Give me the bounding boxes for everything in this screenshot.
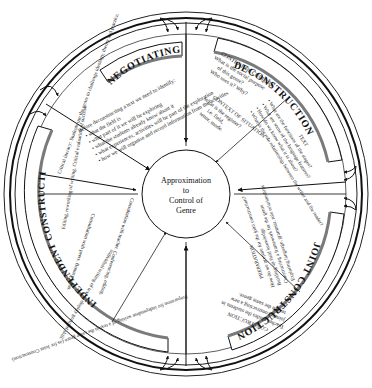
center-goal: Approximation to Control of Genre: [142, 150, 230, 238]
teaching-learning-cycle-diagram: NEGOTIATING FIELD DECONSTRUCTION JOINT C…: [0, 0, 372, 388]
svg-text:Approximation: Approximation: [161, 176, 211, 185]
svg-text:Consultation with teacher. Con: Consultation with teacher. Conferencing,…: [99, 197, 136, 296]
svg-text:Preparation for independent wr: Preparation for independent writing of a…: [10, 293, 189, 364]
svg-text:to: to: [183, 186, 189, 195]
joint-preparation: PREPARATION How do we prepare for the jo…: [231, 185, 295, 291]
svg-text:Genre: Genre: [176, 206, 196, 215]
svg-text:Control of: Control of: [169, 196, 203, 205]
